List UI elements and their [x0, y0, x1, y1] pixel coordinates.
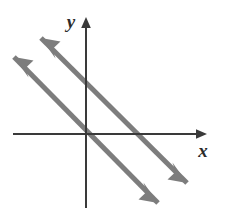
- figure-background: [0, 0, 225, 208]
- x-axis-label: x: [197, 140, 208, 161]
- y-axis-label: y: [65, 11, 76, 32]
- coordinate-graph-figure: y x: [0, 0, 225, 208]
- graph-canvas: y x: [0, 0, 225, 208]
